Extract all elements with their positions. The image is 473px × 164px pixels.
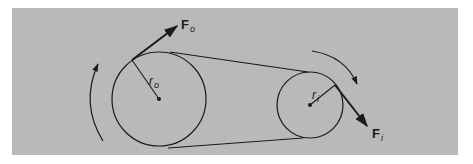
force-fi-subscript: i [381, 133, 383, 143]
belt-drive-diagram [0, 0, 473, 164]
force-fo-subscript: o [190, 24, 195, 34]
force-fo-arrow-icon [132, 26, 177, 60]
radius-ro-label: ro [149, 72, 159, 90]
driven-rotation-arrow-icon [312, 51, 357, 84]
driver-rotation-arrow-icon [90, 64, 103, 141]
belt-top-segment [170, 52, 308, 72]
force-fi-label: Fi [372, 125, 383, 143]
radius-ri-label: ri [312, 86, 319, 104]
radius-ro-symbol: r [149, 74, 153, 88]
radius-ri-subscript: i [317, 94, 319, 104]
force-fo-symbol: F [181, 17, 189, 32]
force-fo-label: Fo [181, 16, 195, 34]
belt-bottom-segment [168, 138, 303, 148]
radius-ro-subscript: o [154, 80, 159, 90]
radius-ri-symbol: r [312, 88, 316, 102]
force-fi-symbol: F [372, 126, 380, 141]
